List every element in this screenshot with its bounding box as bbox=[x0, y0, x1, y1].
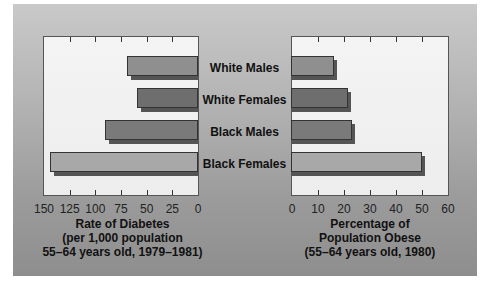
diabetes-tick-top bbox=[121, 37, 122, 42]
diabetes-bar-black-males bbox=[105, 120, 198, 140]
obesity-tick-bottom bbox=[370, 190, 371, 195]
diabetes-tick-top bbox=[172, 37, 173, 42]
obesity-title-line2: Population Obese bbox=[287, 231, 453, 245]
obesity-title-line1: Percentage of bbox=[287, 217, 453, 231]
category-label-black-females: Black Females bbox=[200, 157, 289, 171]
category-label-white-males: White Males bbox=[200, 61, 289, 75]
category-label-white-females: White Females bbox=[200, 93, 289, 107]
diabetes-axis-title: Rate of Diabetes (per 1,000 population 5… bbox=[40, 217, 205, 259]
obesity-tick-top bbox=[318, 37, 319, 42]
obesity-tick-top bbox=[370, 37, 371, 42]
obesity-tick-top bbox=[422, 37, 423, 42]
obesity-tick-bottom bbox=[396, 190, 397, 195]
diabetes-tick-bottom bbox=[121, 190, 122, 195]
obesity-tick-bottom bbox=[318, 190, 319, 195]
diabetes-tick-top bbox=[70, 37, 71, 42]
obesity-title-line3: (55–64 years old, 1980) bbox=[287, 245, 453, 259]
obesity-tick-bottom bbox=[422, 190, 423, 195]
diabetes-tick-bottom bbox=[147, 190, 148, 195]
obesity-bar-white-females bbox=[291, 88, 348, 108]
diabetes-bar-white-females bbox=[137, 88, 198, 108]
obesity-tick-label: 60 bbox=[433, 202, 463, 216]
obesity-bar-black-females bbox=[291, 152, 422, 172]
category-label-black-males: Black Males bbox=[200, 125, 289, 139]
diabetes-title-line2: (per 1,000 population bbox=[40, 231, 205, 245]
diabetes-tick-label: 0 bbox=[183, 202, 213, 216]
diabetes-tick-top bbox=[95, 37, 96, 42]
diabetes-tick-bottom bbox=[172, 190, 173, 195]
obesity-tick-top bbox=[344, 37, 345, 42]
obesity-bar-black-males bbox=[291, 120, 352, 140]
diabetes-tick-top bbox=[147, 37, 148, 42]
obesity-bar-white-males bbox=[291, 56, 334, 76]
diabetes-bar-black-females bbox=[50, 152, 198, 172]
obesity-axis-title: Percentage of Population Obese (55–64 ye… bbox=[287, 217, 453, 259]
diabetes-bar-white-males bbox=[127, 56, 198, 76]
diabetes-tick-bottom bbox=[95, 190, 96, 195]
diabetes-title-line1: Rate of Diabetes bbox=[40, 217, 205, 231]
obesity-tick-bottom bbox=[344, 190, 345, 195]
diabetes-title-line3: 55–64 years old, 1979–1981) bbox=[40, 245, 205, 259]
diabetes-tick-bottom bbox=[70, 190, 71, 195]
obesity-tick-top bbox=[396, 37, 397, 42]
